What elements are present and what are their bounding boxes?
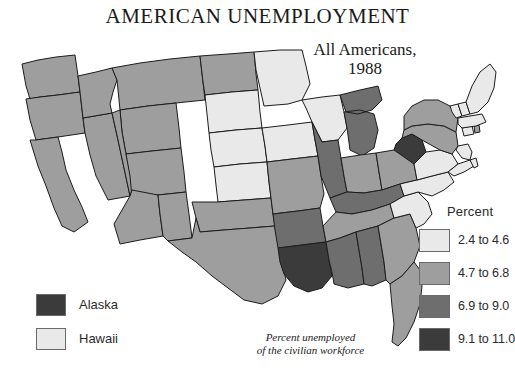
map-footnote: Percent unemployed of the civilian workf… <box>228 331 393 356</box>
legend-item-1: 4.7 to 6.8 <box>419 260 515 286</box>
inset-label-alaska: Alaska <box>79 297 118 312</box>
legend-label-3: 9.1 to 11.0 <box>458 332 515 346</box>
legend-item-3: 9.1 to 11.0 <box>419 326 515 352</box>
legend-swatch-3 <box>419 328 450 351</box>
state-wy <box>120 103 181 154</box>
state-la <box>278 242 332 292</box>
state-mi <box>340 86 382 156</box>
state-wa <box>22 55 80 99</box>
legend-label-2: 6.9 to 9.0 <box>458 299 509 313</box>
state-mo <box>267 156 324 214</box>
state-nm <box>158 192 192 241</box>
state-in <box>341 153 382 193</box>
state-nj <box>456 144 472 160</box>
legend-item-2: 6.9 to 9.0 <box>419 293 515 319</box>
state-ks <box>214 162 271 202</box>
inset-swatch-hawaii <box>36 328 66 350</box>
legend-item-0: 2.4 to 4.6 <box>419 227 515 253</box>
inset-label-hawaii: Hawaii <box>79 331 118 346</box>
state-nd <box>200 52 258 95</box>
legend-swatch-0 <box>419 229 450 252</box>
footnote-line-1: Percent unemployed <box>228 331 393 344</box>
state-me <box>466 64 496 114</box>
state-ca <box>30 137 88 232</box>
state-ia <box>262 122 318 162</box>
state-id <box>78 68 117 118</box>
legend-swatch-1 <box>419 262 450 285</box>
legend-label-0: 2.4 to 4.6 <box>458 233 509 247</box>
legend-label-1: 4.7 to 6.8 <box>458 266 509 280</box>
legend-title: Percent <box>447 204 515 219</box>
state-sd <box>205 90 262 133</box>
state-ne <box>209 128 267 167</box>
state-az <box>114 190 163 244</box>
legend-swatch-2 <box>419 295 450 318</box>
inset-swatch-alaska <box>36 294 66 316</box>
state-mt <box>112 56 205 110</box>
map-figure: AMERICAN UNEMPLOYMENT All Americans, 198… <box>0 0 515 376</box>
inset-legend-item-hawaii: Hawaii <box>36 326 118 351</box>
footnote-line-2: of the civilian workforce <box>228 344 393 357</box>
legend: Percent 2.4 to 4.6 4.7 to 6.8 6.9 to 9.0… <box>419 204 515 359</box>
state-mn <box>254 50 310 106</box>
inset-legend: Alaska Hawaii <box>36 292 118 360</box>
state-or <box>26 92 85 140</box>
state-ar <box>273 208 326 248</box>
inset-legend-item-alaska: Alaska <box>36 292 118 317</box>
